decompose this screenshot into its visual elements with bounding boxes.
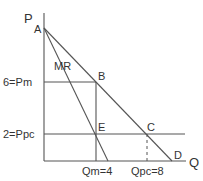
marginal-revenue-curve <box>44 28 108 161</box>
mr-curve-label: MR <box>54 60 71 72</box>
point-c-label: C <box>147 121 155 133</box>
price-axis-label: P <box>24 11 33 26</box>
point-e-label: E <box>98 121 105 133</box>
quantity-axis-label: Q <box>189 155 199 170</box>
point-b-label: B <box>98 70 105 82</box>
economics-diagram: P Q A B E C D MR 6=Pm 2=Ppc Qm=4 Qpc=8 <box>0 0 203 181</box>
monopoly-quantity-label: Qm=4 <box>82 165 112 177</box>
competitive-price-label: 2=Ppc <box>3 128 35 140</box>
demand-curve <box>44 28 172 161</box>
monopoly-price-label: 6=Pm <box>3 76 32 88</box>
point-d-label: D <box>174 149 182 161</box>
competitive-quantity-label: Qpc=8 <box>131 165 164 177</box>
point-a-label: A <box>34 23 42 35</box>
